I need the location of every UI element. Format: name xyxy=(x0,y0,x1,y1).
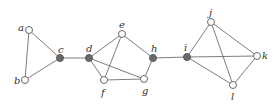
node-label-h: h xyxy=(151,44,157,54)
node-label-a: a xyxy=(18,23,24,33)
edge-b-c xyxy=(25,58,60,80)
node-l xyxy=(230,82,237,89)
node-label-l: l xyxy=(231,92,234,102)
edge-i-k xyxy=(187,56,257,57)
node-k xyxy=(254,53,261,60)
edge-h-i xyxy=(153,57,187,58)
edge-a-b xyxy=(25,30,29,80)
node-d xyxy=(86,55,93,62)
node-a xyxy=(26,27,33,34)
node-label-g: g xyxy=(142,86,148,96)
node-c xyxy=(57,55,64,62)
edge-a-c xyxy=(29,30,60,58)
edge-j-k xyxy=(211,22,257,56)
node-g xyxy=(141,76,148,83)
node-j xyxy=(208,19,215,26)
node-label-j: j xyxy=(209,8,212,18)
node-i xyxy=(184,54,191,61)
edge-i-l xyxy=(187,57,233,85)
graph-canvas xyxy=(0,0,280,104)
node-f xyxy=(101,77,108,84)
edge-k-l xyxy=(233,56,257,85)
node-h xyxy=(150,55,157,62)
node-label-e: e xyxy=(119,20,125,30)
node-label-c: c xyxy=(58,45,64,55)
node-label-d: d xyxy=(86,44,92,54)
edge-i-j xyxy=(187,22,211,57)
edge-f-g xyxy=(104,79,144,80)
node-e xyxy=(119,31,126,38)
node-label-i: i xyxy=(184,43,187,53)
node-b xyxy=(22,77,29,84)
node-label-k: k xyxy=(262,51,268,61)
node-label-b: b xyxy=(14,76,20,86)
node-label-f: f xyxy=(101,88,105,98)
edge-j-l xyxy=(211,22,233,85)
edge-e-h xyxy=(122,34,153,58)
edge-d-g xyxy=(89,58,144,79)
